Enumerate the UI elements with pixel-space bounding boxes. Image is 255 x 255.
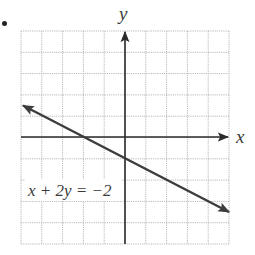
- equation-label: x + 2y = −2: [27, 181, 112, 200]
- bullet-marker: [2, 21, 7, 26]
- coordinate-plane: y x x + 2y = −2: [0, 0, 255, 255]
- graph-figure: y x x + 2y = −2: [0, 0, 255, 255]
- x-axis-label: x: [235, 126, 245, 147]
- y-axis-label: y: [117, 3, 128, 24]
